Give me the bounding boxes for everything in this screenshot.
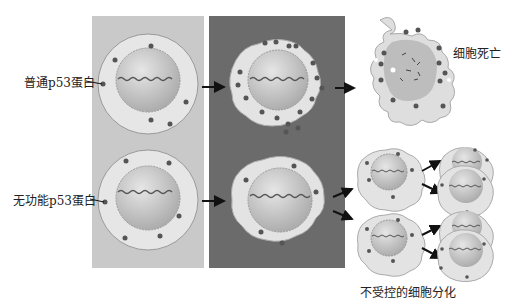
daughter-cell-top: [358, 149, 426, 212]
arrow-icon: [333, 189, 352, 197]
dying-cell: [370, 17, 454, 125]
label-nonfunctional-p53: 无功能p53蛋白: [13, 191, 96, 208]
stressed-cell-top: [230, 40, 325, 135]
label-uncontrolled-division: 不受控的细胞分化: [360, 283, 456, 300]
normal-cell-bottom: [98, 150, 198, 250]
arrow-icon: [333, 211, 352, 219]
arrow-icon: [422, 226, 440, 235]
stressed-cell-bottom: [232, 156, 325, 245]
daughter-cell-bottom: [358, 214, 426, 277]
arrow-icon: [422, 161, 440, 171]
normal-cell-top: [98, 34, 198, 134]
granddaughter-cells: [438, 147, 494, 282]
label-cell-death: 细胞死亡: [453, 44, 501, 61]
label-normal-p53: 普通p53蛋白: [24, 73, 95, 90]
p53-diagram: [0, 0, 507, 304]
